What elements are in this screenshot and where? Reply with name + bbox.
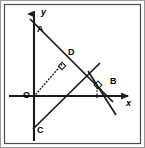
x-axis-label: x	[126, 99, 131, 108]
point-label-D: D	[68, 48, 75, 57]
geometry-figure: A B C D O x y	[0, 0, 145, 148]
point-label-A: A	[37, 25, 44, 34]
origin-label-O: O	[23, 91, 30, 100]
point-label-C: C	[37, 126, 44, 135]
right-angle-at-D	[58, 62, 65, 69]
y-axis-label: y	[41, 8, 46, 17]
figure-canvas	[0, 0, 145, 148]
segment-OD-dotted	[36, 63, 63, 94]
point-label-B: B	[110, 77, 117, 86]
